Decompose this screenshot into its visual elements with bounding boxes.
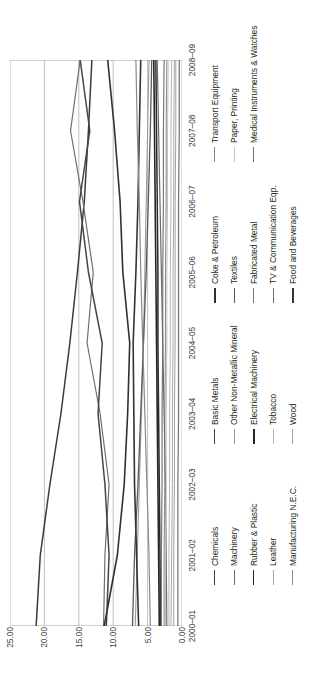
legend-label: Basic Metals: [211, 378, 219, 425]
legend-label: Medical Instruments & Watches: [250, 26, 258, 143]
legend-label: Electrical Machinery: [250, 350, 258, 425]
legend-label: Tobacco: [269, 394, 277, 425]
legend-swatch-line-icon: [273, 570, 274, 585]
legend-swatch-line-icon: [253, 429, 255, 444]
legend-label: Chemicals: [211, 527, 219, 566]
y-axis-tick: 15.00: [74, 627, 84, 673]
legend-item[interactable]: Wood: [283, 307, 303, 444]
legend-swatch-line-icon: [234, 147, 235, 162]
legend-label: TV & Communication Eqp.: [269, 185, 277, 284]
legend-swatch-line-icon: [234, 570, 235, 585]
y-axis-tick: 0.00: [177, 627, 187, 673]
legend-item[interactable]: Food and Beverages: [283, 166, 303, 303]
legend-label: Paper, Printing: [230, 88, 238, 143]
series-line: [133, 60, 141, 626]
legend-label: Coke & Petroleum: [211, 216, 219, 284]
legend-item[interactable]: Textiles: [225, 166, 245, 303]
legend-item[interactable]: Fabricated Metal: [244, 166, 264, 303]
legend-item[interactable]: Basic Metals: [205, 307, 225, 444]
legend-label: Food and Beverages: [289, 206, 297, 284]
legend-item[interactable]: Tobacco: [264, 307, 284, 444]
legend-label: Other Non-Metallic Mineral: [230, 325, 238, 425]
legend-label: Leather: [269, 538, 277, 566]
legend-swatch-line-icon: [253, 288, 254, 303]
legend-item[interactable]: Medical Instruments & Watches: [244, 25, 264, 162]
chart-figure: 25.0020.0015.0010.005.000.00 2000–012001…: [0, 0, 336, 673]
plot-canvas: [10, 60, 182, 626]
legend-item[interactable]: Other Non-Metallic Mineral: [225, 307, 245, 444]
y-axis-tick: 10.00: [108, 627, 118, 673]
legend-swatch-line-icon: [234, 429, 235, 444]
rotated-figure-container: 25.0020.0015.0010.005.000.00 2000–012001…: [0, 0, 336, 673]
legend-swatch-line-icon: [214, 288, 216, 303]
legend-label: Transport Equipment: [211, 65, 219, 143]
legend-label: Textiles: [230, 256, 238, 284]
legend-swatch-line-icon: [253, 570, 254, 585]
legend-label: Manufacturing N.E.C.: [289, 486, 297, 566]
legend-item[interactable]: Paper, Printing: [225, 25, 245, 162]
legend-item[interactable]: Rubber & Plastic: [244, 448, 264, 585]
legend-swatch-line-icon: [273, 288, 274, 303]
x-axis-tick: 2001–02: [187, 539, 197, 571]
legend-label: Fabricated Metal: [250, 222, 258, 284]
x-axis-tick: 2008–09: [187, 44, 197, 76]
legend-label: Rubber & Plastic: [250, 504, 258, 566]
legend-label: Wood: [289, 403, 297, 425]
legend-item[interactable]: Chemicals: [205, 448, 225, 585]
legend-item[interactable]: Electrical Machinery: [244, 307, 264, 444]
legend-item[interactable]: Coke & Petroleum: [205, 166, 225, 303]
x-axis-tick: 2000–01: [187, 610, 197, 642]
legend-item[interactable]: Manufacturing N.E.C.: [283, 448, 303, 585]
y-axis-tick: 20.00: [39, 627, 49, 673]
legend-item[interactable]: Transport Equipment: [205, 25, 225, 162]
legend-swatch-line-icon: [253, 147, 254, 162]
legend-swatch-line-icon: [214, 570, 215, 585]
series-line: [169, 60, 172, 626]
line-chart-svg: [10, 60, 182, 626]
series-line: [178, 60, 179, 626]
y-axis-tick: 25.00: [5, 627, 15, 673]
legend-swatch-line-icon: [234, 288, 235, 303]
legend-item[interactable]: Leather: [264, 448, 284, 585]
legend-swatch-line-icon: [292, 429, 293, 444]
y-axis-tick: 5.00: [143, 627, 153, 673]
x-axis-tick: 2007–08: [187, 115, 197, 147]
legend-item[interactable]: Machinery: [225, 448, 245, 585]
series-line: [79, 60, 109, 626]
x-axis-tick: 2006–07: [187, 185, 197, 217]
x-axis-tick: 2004–05: [187, 327, 197, 359]
x-axis-tick: 2002–03: [187, 468, 197, 500]
legend-item[interactable]: TV & Communication Eqp.: [264, 166, 284, 303]
legend-swatch-line-icon: [292, 288, 294, 303]
legend-swatch-line-icon: [214, 147, 215, 162]
legend-label: Machinery: [230, 527, 238, 566]
legend-swatch-line-icon: [292, 570, 293, 585]
plot-area: [10, 60, 182, 626]
x-axis-tick: 2003–04: [187, 398, 197, 430]
chart-legend: ChemicalsMachineryRubber & PlasticLeathe…: [205, 25, 325, 585]
x-axis-tick: 2005–06: [187, 256, 197, 288]
legend-swatch-line-icon: [214, 429, 215, 444]
series-line: [71, 60, 110, 626]
legend-swatch-line-icon: [273, 429, 274, 444]
